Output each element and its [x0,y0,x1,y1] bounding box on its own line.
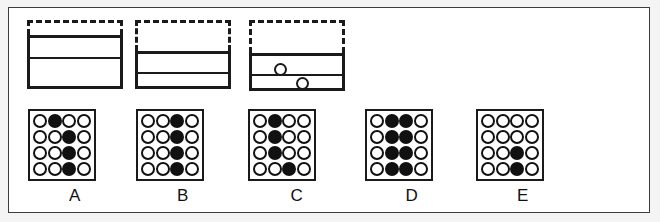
option-label-d: D [364,186,460,206]
container-divider-line [30,57,120,59]
dot-filled [385,146,399,160]
dot-empty [141,114,155,128]
dot-empty [253,114,267,128]
dot-empty [525,162,539,176]
dot-empty [141,162,155,176]
dot-empty [496,146,510,160]
apparatus-c [249,8,345,91]
dot-filled [62,162,76,176]
dot-filled [170,130,184,144]
dot-filled [62,130,76,144]
dot-filled [399,146,413,160]
dot-empty [370,114,384,128]
dot-filled [268,130,282,144]
dot-empty [414,130,428,144]
dot-empty [268,162,282,176]
dot-empty [282,146,296,160]
dot-empty [33,114,47,128]
dot-empty [48,130,62,144]
dot-empty [33,130,47,144]
dot-empty [156,162,170,176]
container-divider-line [138,72,228,74]
answer-option-b[interactable]: B [135,8,231,212]
dot-empty [525,146,539,160]
dot-grid-row [481,162,539,176]
dot-grid-row [141,130,199,144]
dot-empty [48,146,62,160]
dot-empty [414,162,428,176]
dot-grid-row [481,146,539,160]
answer-option-d[interactable]: D [364,8,460,212]
dot-empty [370,130,384,144]
option-label-b: B [135,186,231,206]
dot-empty [282,130,296,144]
dot-grid-row [141,146,199,160]
dot-grid-row [370,114,428,128]
container-box [135,51,231,89]
dot-empty [297,162,311,176]
dot-empty [253,162,267,176]
dot-filled [268,114,282,128]
dot-empty [510,114,524,128]
dot-grid-row [370,162,428,176]
dot-grid-row [253,162,311,176]
dot-grid-c [248,109,316,181]
dot-filled [62,146,76,160]
dot-filled [385,162,399,176]
dot-empty [510,130,524,144]
dot-filled [170,114,184,128]
dot-filled [385,114,399,128]
dot-empty [48,162,62,176]
option-label-e: E [475,186,571,206]
dot-grid-row [33,146,91,160]
dot-empty [253,146,267,160]
dashed-headspace-region [135,20,231,51]
apparatus-a [27,8,123,89]
dot-filled [385,130,399,144]
dot-empty [77,162,91,176]
dot-grid-a [28,109,96,181]
dot-empty [525,114,539,128]
dot-grid-row [141,114,199,128]
dot-empty [481,162,495,176]
dot-empty [253,130,267,144]
answer-option-c[interactable]: C [249,8,345,212]
option-label-c: C [249,186,345,206]
dot-empty [481,146,495,160]
dot-filled [170,146,184,160]
dot-empty [481,114,495,128]
dot-filled [48,114,62,128]
dot-empty [496,114,510,128]
dot-empty [33,146,47,160]
answer-option-a[interactable]: A [27,8,123,212]
dot-empty [185,114,199,128]
dot-grid-row [33,162,91,176]
dot-empty [282,114,296,128]
dashed-headspace-region [249,20,345,53]
dot-empty [141,130,155,144]
bubble-marker [296,77,309,90]
dot-grid-e [476,109,544,181]
dot-empty [156,114,170,128]
dot-grid-row [253,130,311,144]
dot-empty [141,146,155,160]
dot-grid-row [253,146,311,160]
dot-grid-row [33,130,91,144]
dot-empty [496,130,510,144]
container-box [249,53,345,91]
container-box [27,35,123,89]
dot-grid-d [365,109,433,181]
dot-grid-row [481,130,539,144]
dot-empty [297,146,311,160]
answer-option-e[interactable]: E [475,8,571,212]
dot-filled [399,130,413,144]
dot-grid-row [370,146,428,160]
dot-empty [481,130,495,144]
dot-empty [414,146,428,160]
dot-empty [297,130,311,144]
dot-empty [370,162,384,176]
dot-empty [77,146,91,160]
bubble-marker [274,63,287,76]
dot-empty [297,114,311,128]
dot-empty [185,130,199,144]
